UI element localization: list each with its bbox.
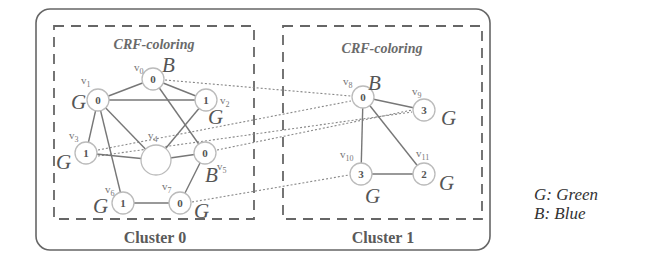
node-v10-label: v10 (340, 148, 354, 163)
node-v1-color: G (71, 90, 86, 114)
node-v7-value: 0 (177, 197, 183, 209)
node-v5-value: 0 (202, 147, 208, 159)
node-v6-value: 1 (120, 197, 126, 209)
node-v11-color: G (439, 171, 454, 195)
edge-v5-v9 (217, 110, 412, 150)
node-v5-label: v5 (217, 160, 227, 175)
node-v0-color: B (162, 53, 175, 77)
node-v11-label: v11 (416, 147, 429, 162)
node-v4 (141, 145, 171, 175)
cluster-1-label: Cluster 1 (352, 229, 414, 246)
node-v8-value: 0 (360, 91, 366, 103)
cluster-0-label: Cluster 0 (124, 229, 186, 246)
node-v9-label: v9 (412, 85, 422, 100)
node-v0-label: v0 (134, 61, 144, 76)
legend-blue: B: Blue (534, 204, 585, 223)
legend-green: G: Green (534, 185, 598, 204)
cluster-1-title: CRF-coloring (342, 41, 423, 56)
nodes (75, 68, 435, 214)
node-v10-value: 3 (358, 168, 364, 180)
cluster-0-title: CRF-coloring (114, 37, 195, 52)
node-v8-color: B (368, 71, 381, 95)
node-v0-value: 0 (150, 73, 156, 85)
edge-v0-v8 (165, 80, 351, 96)
node-v6-color: G (93, 194, 108, 218)
node-v9-color: G (441, 106, 456, 130)
node-v8-label: v8 (343, 75, 353, 90)
node-v7-label: v7 (162, 180, 172, 195)
node-v3-label: v3 (69, 129, 79, 144)
node-v1-label: v1 (81, 74, 91, 89)
crf-cluster-diagram: CRF-coloring CRF-coloring (0, 0, 648, 267)
node-v9-value: 3 (421, 104, 427, 116)
node-v4-label: v4 (148, 129, 158, 144)
node-v3-color: G (56, 150, 71, 174)
node-v7-color: G (194, 199, 209, 223)
node-v5-color: B (205, 163, 218, 187)
cluster-0-box (54, 26, 254, 219)
node-v2-color: G (208, 105, 223, 129)
node-v11-value: 2 (421, 168, 427, 180)
node-v10-color: G (365, 184, 380, 208)
node-v1-value: 0 (95, 94, 101, 106)
node-v3-value: 1 (83, 147, 89, 159)
